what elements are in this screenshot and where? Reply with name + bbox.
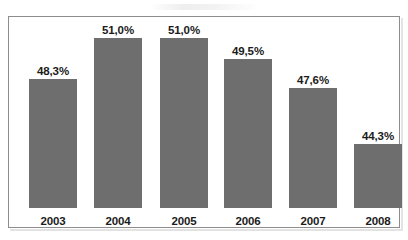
bar-value-label: 47,6% xyxy=(275,74,351,86)
bar-rect xyxy=(94,38,142,208)
bar-rect xyxy=(224,59,272,208)
frame-shadow-bottom xyxy=(10,229,402,231)
bar-value-label: 51,0% xyxy=(146,24,222,36)
x-axis-category-label: 2004 xyxy=(80,215,156,227)
bar-chart: 48,3%200351,0%200451,0%200549,5%200647,6… xyxy=(0,0,408,240)
bar-value-label: 51,0% xyxy=(80,24,156,36)
bar-value-label: 49,5% xyxy=(210,45,286,57)
bar-value-label: 48,3% xyxy=(15,65,91,77)
bar-value-label: 44,3% xyxy=(340,130,408,142)
scan-artifact xyxy=(150,4,260,10)
bar-rect xyxy=(354,144,402,208)
bar-rect xyxy=(289,88,337,208)
bars-layer: 48,3%200351,0%200451,0%200549,5%200647,6… xyxy=(9,17,401,229)
bar-rect xyxy=(160,38,208,208)
bar-rect xyxy=(29,79,77,208)
plot-area: 48,3%200351,0%200451,0%200549,5%200647,6… xyxy=(8,16,400,228)
x-axis-category-label: 2008 xyxy=(340,215,408,227)
